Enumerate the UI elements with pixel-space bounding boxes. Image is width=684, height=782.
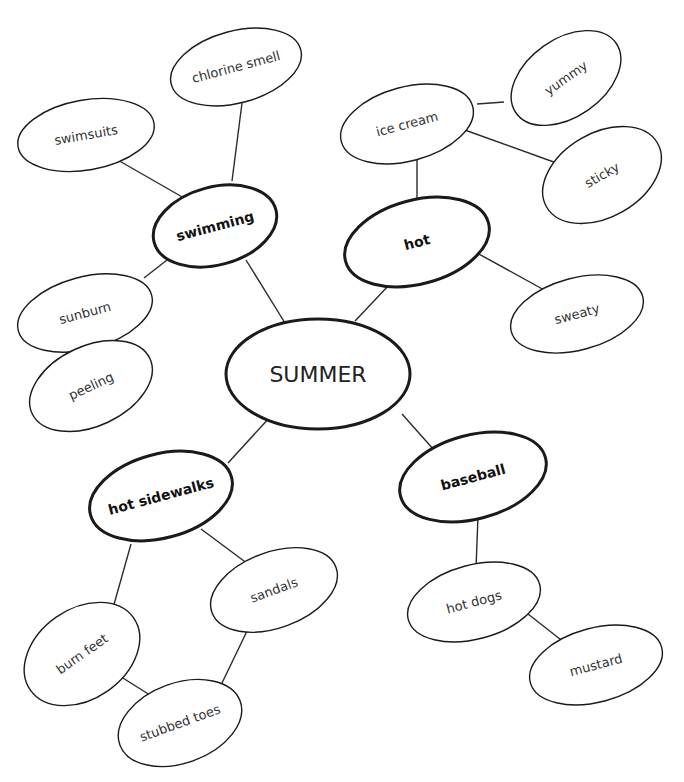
connector-hot-to-sweaty (477, 253, 546, 291)
detail-node-yummy: yummy (494, 11, 639, 145)
connector-swimming-to-swimsuits (116, 159, 184, 198)
topic-node-baseball: baseball (390, 417, 557, 537)
topic-node-swimming: swimming (144, 172, 286, 280)
central-node-summer: SUMMER (226, 319, 410, 429)
connector-hot-sidewalks-to-sandals (201, 529, 248, 564)
connector-summer-to-hot (355, 284, 390, 321)
detail-node-sticky: sticky (526, 107, 679, 244)
connector-swimming-to-chlorine-smell (232, 103, 242, 181)
connector-summer-to-swimming (246, 260, 285, 323)
connector-summer-to-baseball (402, 414, 434, 450)
topic-node-hot-sidewalks: hot sidewalks (80, 437, 243, 556)
detail-node-sandals: sandals (199, 532, 349, 649)
mind-map-canvas: SUMMERswimminghothot sidewalksbaseballch… (0, 0, 684, 782)
connector-summer-to-hot-sidewalks (228, 416, 271, 463)
connector-baseball-to-hot-dogs (476, 516, 478, 568)
connector-hot-sidewalks-to-burn-feet (113, 544, 131, 608)
connector-ice-cream-to-yummy (477, 102, 504, 104)
connector-hot-dogs-to-mustard (528, 614, 565, 643)
detail-node-ice-cream: ice cream (332, 71, 483, 178)
mind-map-nodes: SUMMERswimminghothot sidewalksbaseballch… (5, 11, 679, 782)
topic-node-hot: hot (335, 182, 500, 301)
connector-swimming-to-sunburn (144, 260, 167, 278)
node-label: SUMMER (269, 362, 366, 387)
detail-node-mustard: mustard (521, 612, 672, 719)
connector-sandals-to-stubbed-toes (222, 629, 248, 683)
connector-ice-cream-to-sticky (462, 129, 562, 165)
detail-node-sweaty: sweaty (502, 262, 652, 367)
detail-node-swimsuits: swimsuits (12, 89, 160, 182)
detail-node-chlorine-smell: chlorine smell (162, 15, 310, 119)
detail-node-hot-dogs: hot dogs (399, 549, 550, 656)
